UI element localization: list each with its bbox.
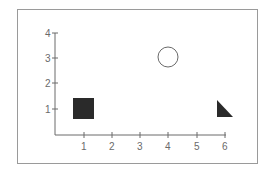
y-tick-labels: 1 2 3 4 xyxy=(45,28,51,115)
x-tick-labels: 1 2 3 4 5 6 xyxy=(81,141,228,152)
filled-square xyxy=(73,98,94,119)
x-tick-label: 6 xyxy=(222,141,228,152)
x-tick-label: 2 xyxy=(109,141,115,152)
x-tick-label: 1 xyxy=(81,141,87,152)
coordinate-plot: 1 2 3 4 1 2 3 4 5 6 xyxy=(0,0,269,179)
open-circle xyxy=(158,47,178,67)
y-tick-label: 1 xyxy=(45,104,51,115)
x-tick-label: 4 xyxy=(165,141,171,152)
x-tick-label: 3 xyxy=(137,141,143,152)
filled-right-triangle xyxy=(217,100,233,117)
y-tick-label: 3 xyxy=(45,53,51,64)
y-tick-label: 4 xyxy=(45,28,51,39)
x-tick-label: 5 xyxy=(194,141,200,152)
y-tick-label: 2 xyxy=(45,78,51,89)
